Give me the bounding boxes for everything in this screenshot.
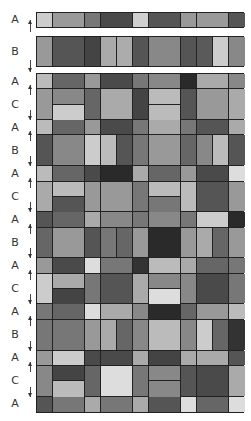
block-cell bbox=[85, 212, 101, 226]
block-cell bbox=[117, 135, 133, 165]
block-cell bbox=[85, 228, 101, 258]
block-cell bbox=[37, 366, 53, 396]
block-cell bbox=[53, 397, 85, 412]
block-cell bbox=[101, 166, 133, 180]
block-cell bbox=[229, 74, 245, 88]
block-cell bbox=[229, 397, 245, 412]
band-c bbox=[37, 274, 243, 305]
block-cell bbox=[101, 182, 133, 212]
block-cell bbox=[149, 397, 181, 412]
block-cell bbox=[149, 320, 181, 350]
band-label: A bbox=[8, 398, 22, 409]
block-cell-bottom bbox=[53, 105, 85, 120]
block-cell bbox=[149, 258, 181, 272]
block-cell bbox=[229, 304, 245, 318]
arrow-up-icon bbox=[30, 20, 32, 32]
block-cell bbox=[101, 13, 133, 27]
block-cell bbox=[149, 212, 181, 226]
block-cell-top bbox=[53, 274, 85, 289]
arrow-up-icon bbox=[30, 362, 32, 372]
block-cell bbox=[229, 320, 245, 350]
block-cell-bottom bbox=[53, 381, 85, 396]
arrow-head bbox=[28, 85, 32, 89]
block-cell bbox=[133, 166, 149, 180]
band-label: C bbox=[8, 191, 22, 202]
block-cell bbox=[101, 397, 133, 412]
block-cell bbox=[197, 351, 229, 365]
block-cell bbox=[229, 274, 245, 304]
block-cell bbox=[197, 74, 229, 88]
block-cell bbox=[149, 13, 181, 27]
arrow-head bbox=[28, 131, 32, 135]
block-cell bbox=[101, 366, 133, 396]
block-cell bbox=[181, 13, 197, 27]
arrow-up-icon bbox=[30, 316, 32, 326]
block-cell bbox=[53, 74, 85, 88]
block-cell bbox=[229, 37, 245, 66]
block-cell bbox=[197, 89, 229, 119]
block-cell bbox=[197, 320, 213, 350]
block-cell bbox=[53, 212, 85, 226]
block-cell bbox=[37, 258, 53, 272]
block-cell bbox=[37, 74, 53, 88]
block-cell bbox=[101, 212, 133, 226]
block-cell bbox=[101, 120, 133, 134]
block-cell bbox=[53, 351, 85, 365]
band-label: A bbox=[8, 260, 22, 271]
arrow-head bbox=[28, 116, 32, 120]
block-cell bbox=[197, 120, 229, 134]
block-cell bbox=[133, 212, 149, 226]
block-cell-bottom bbox=[53, 289, 85, 304]
block-cell bbox=[53, 258, 85, 272]
block-cell bbox=[37, 397, 53, 412]
band-a bbox=[37, 166, 243, 181]
block-cell bbox=[85, 182, 101, 212]
arrow-head bbox=[28, 254, 32, 258]
band-a bbox=[37, 258, 243, 273]
block-cell bbox=[37, 274, 53, 304]
block-cell bbox=[229, 13, 245, 27]
arrow-head bbox=[28, 20, 32, 24]
arrow-head bbox=[28, 178, 32, 182]
block-cell bbox=[37, 320, 53, 350]
arrow-head bbox=[28, 362, 32, 366]
block-cell bbox=[85, 13, 101, 27]
block-cell bbox=[37, 120, 53, 134]
block-cell bbox=[117, 228, 133, 258]
block-cell bbox=[133, 37, 149, 66]
band-c bbox=[37, 182, 243, 213]
block-cell bbox=[101, 320, 117, 350]
block-cell bbox=[133, 320, 149, 350]
arrow-up-icon bbox=[30, 270, 32, 280]
block-cell bbox=[181, 228, 197, 258]
block-cell bbox=[181, 166, 197, 180]
block-cell bbox=[181, 135, 197, 165]
block-cell bbox=[101, 74, 133, 88]
band-label: C bbox=[8, 283, 22, 294]
block-cell bbox=[181, 274, 197, 304]
block-cell bbox=[85, 274, 101, 304]
block-cell-top bbox=[149, 274, 181, 289]
block-cell bbox=[149, 135, 181, 165]
block-cell bbox=[53, 320, 85, 350]
block-cell bbox=[133, 258, 149, 272]
block-cell bbox=[149, 166, 181, 180]
block-cell bbox=[133, 89, 149, 119]
band-label: A bbox=[8, 306, 22, 317]
arrow-down-icon bbox=[30, 341, 32, 351]
block-cell bbox=[229, 166, 245, 180]
block-cell bbox=[181, 89, 197, 119]
block-cell bbox=[37, 212, 53, 226]
block-cell bbox=[85, 89, 101, 119]
block-cell bbox=[85, 304, 101, 318]
block-cell bbox=[213, 37, 229, 66]
block-cell bbox=[229, 351, 245, 365]
block-cell bbox=[37, 351, 53, 365]
block-cell bbox=[37, 182, 53, 212]
block-cell bbox=[133, 274, 149, 304]
arrow-head bbox=[28, 393, 32, 397]
band-label: C bbox=[8, 375, 22, 386]
block-cell bbox=[133, 135, 149, 165]
block-cell-bottom bbox=[149, 197, 181, 212]
block-cell bbox=[85, 166, 101, 180]
